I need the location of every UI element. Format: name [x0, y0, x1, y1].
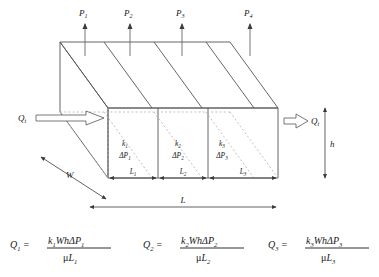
equation-2-denominator: μL2 — [196, 252, 211, 265]
top-partition-2 — [154, 42, 202, 108]
equation-2-lhs: Q2= — [143, 239, 163, 252]
equation-3-numerator: k3WhΔP3 — [306, 235, 343, 248]
hidden-partition-1 — [104, 112, 152, 178]
top-partition-3 — [206, 42, 254, 108]
hidden-bottom-right — [230, 112, 278, 178]
pressure-label-4: P4 — [243, 8, 253, 19]
hidden-partition-3 — [206, 112, 254, 178]
equation-2-numerator: k2WhΔP2 — [181, 235, 218, 248]
outlet-flow-label: Qt — [311, 116, 320, 127]
equation-1: Q1= k1WhΔP1 μL1 — [10, 235, 111, 265]
top-face-outline — [60, 42, 278, 108]
outlet-flow-arrow — [284, 114, 308, 128]
inlet-flow-arrow — [36, 111, 104, 125]
equation-1-numerator: k1WhΔP1 — [48, 235, 84, 248]
block-perm-label-3: k3 — [219, 139, 225, 149]
left-face-outline — [60, 42, 108, 178]
block-perm-label-2: k2 — [175, 139, 181, 149]
inlet-flow-label: Qt — [18, 113, 27, 124]
permeability-block-figure: P1 P2 P3 P4 Qt Qt k1 ΔP1 k2 ΔP2 k3 ΔP3 L… — [0, 0, 379, 277]
block-perm-label-1: k1 — [122, 139, 128, 149]
total-length-dimension-label: L — [179, 195, 185, 205]
block-dp-label-1: ΔP1 — [118, 151, 131, 161]
pressure-label-3: P3 — [175, 8, 185, 19]
equation-1-denominator: μL1 — [63, 252, 77, 265]
segment-length-label-3: L3 — [239, 167, 247, 177]
pressure-label-1: P1 — [78, 8, 88, 19]
equation-3: Q3= k3WhΔP3 μL3 — [268, 235, 369, 265]
equation-1-lhs: Q1= — [10, 239, 30, 252]
pressure-tap-arrows — [85, 24, 250, 56]
equation-3-lhs: Q3= — [268, 239, 288, 252]
segment-length-label-2: L2 — [179, 167, 187, 177]
block-dp-label-3: ΔP3 — [215, 151, 228, 161]
equation-3-denominator: μL3 — [321, 252, 336, 265]
top-partition-1 — [104, 42, 152, 108]
width-dimension-line — [41, 157, 106, 199]
block-dp-label-2: ΔP2 — [171, 151, 184, 161]
pressure-label-2: P2 — [123, 8, 133, 19]
segment-length-label-1: L1 — [129, 167, 137, 177]
equation-2: Q2= k2WhΔP2 μL2 — [143, 235, 244, 265]
height-dimension-label: h — [330, 139, 335, 149]
